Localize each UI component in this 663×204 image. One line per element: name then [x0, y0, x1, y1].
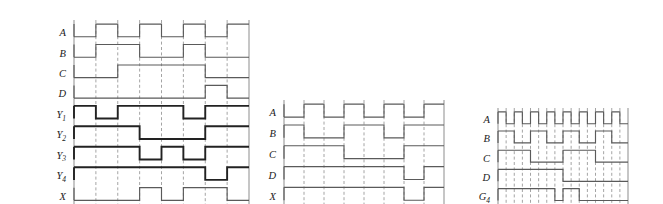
middle-timing-panel-svg: ABCDX [258, 96, 448, 204]
signal-a-waveform [498, 112, 628, 124]
signal-y3-label: Y3 [56, 150, 66, 164]
signal-d-label: D [57, 88, 66, 99]
signal-a-waveform [284, 104, 444, 117]
signal-b-label: B [60, 48, 67, 59]
signal-d-label: D [267, 170, 276, 181]
signal-y3-label-subscript: 3 [61, 154, 66, 163]
signal-b-label: B [484, 133, 491, 144]
signal-y4-label: Y4 [56, 170, 66, 184]
signal-a-label: A [59, 27, 67, 38]
left-timing-panel-svg: ABCDY1Y2Y3Y4X [48, 16, 253, 204]
left-timing-panel: ABCDY1Y2Y3Y4X [48, 16, 253, 204]
signal-d-waveform [498, 169, 628, 181]
signal-x-label: X [59, 191, 67, 202]
signal-y3-waveform [74, 147, 249, 160]
signal-g4-label: G4 [479, 191, 491, 204]
signal-c-waveform [498, 150, 628, 162]
right-timing-panel: ABCDG4 [472, 104, 632, 204]
signal-y1-label: Y1 [56, 109, 66, 123]
signal-c-label: C [483, 153, 491, 164]
signal-y2-label-subscript: 2 [62, 134, 66, 143]
signal-a-label: A [483, 114, 491, 125]
signal-x-waveform [74, 188, 249, 201]
signal-c-label: C [269, 149, 277, 160]
figure-canvas: ABCDY1Y2Y3Y4X ABCDX ABCDG4 [0, 0, 663, 204]
signal-b-waveform [284, 125, 444, 138]
signal-y1-label-subscript: 1 [62, 114, 66, 123]
middle-timing-panel: ABCDX [258, 96, 448, 204]
grid-lines [74, 20, 249, 204]
signal-x-label: X [269, 191, 277, 202]
signal-y2-label: Y2 [56, 129, 66, 143]
signal-a-waveform [74, 24, 249, 37]
right-timing-panel-svg: ABCDG4 [472, 104, 632, 204]
signal-y4-label-subscript: 4 [62, 175, 66, 184]
signal-g4-label-subscript: 4 [486, 196, 490, 204]
signal-b-label: B [270, 128, 277, 139]
signal-g4-waveform [498, 189, 628, 201]
signal-a-label: A [269, 107, 277, 118]
signal-c-label: C [59, 68, 67, 79]
signal-d-label: D [481, 172, 490, 183]
signal-b-waveform [498, 131, 628, 143]
